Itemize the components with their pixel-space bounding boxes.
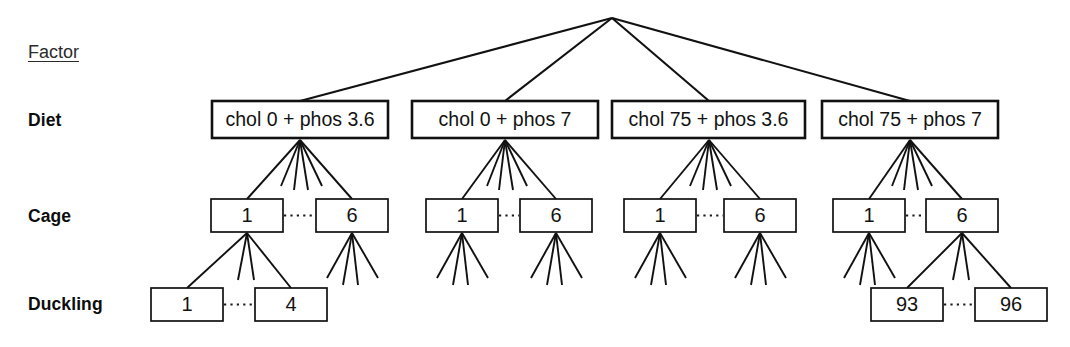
edge-root-diet-4 [612, 18, 910, 101]
edge-root-diet-1 [300, 18, 612, 101]
diet-4-to-cage-edges [869, 140, 962, 199]
cage-1-1-to-duckling-edges [187, 233, 291, 288]
duckling-box-2-last-label: 96 [1000, 293, 1022, 315]
cage-box-3-first-label: 1 [654, 204, 665, 226]
tree-edges-and-nodes: chol 0 + phos 3.6 chol 0 + phos 7 chol 7… [0, 0, 1070, 347]
cage-4-1-to-duckling-stubs [844, 233, 895, 285]
duckling-group-2: 93 96 [871, 288, 1047, 321]
edge-root-diet-2 [505, 18, 612, 101]
edge-diet3-cage6 [709, 140, 760, 199]
cage-group-2: 1 6 [426, 199, 592, 232]
cage-group-3: 1 6 [624, 199, 796, 232]
edge-diet1-cage1 [247, 140, 300, 199]
cage-4-6-to-duckling-edges [907, 233, 1011, 288]
cage-3-1-to-duckling-stubs [635, 233, 686, 285]
cage-box-4-first-label: 1 [863, 204, 874, 226]
diet-node-2[interactable]: chol 0 + phos 7 [412, 101, 598, 138]
cage-group-4: 1 6 [833, 199, 998, 232]
cage-box-3-last-label: 6 [754, 204, 765, 226]
cage-1-6-to-duckling-stubs [327, 233, 378, 285]
cage-group-1: 1 6 [211, 199, 388, 232]
duckling-box-1-first-label: 1 [181, 293, 192, 315]
diet-box-1-label: chol 0 + phos 3.6 [225, 108, 374, 130]
cage-2-1-to-duckling-stubs [437, 233, 488, 285]
root-to-diet-edges [300, 18, 910, 101]
edge-diet2-cage6 [505, 140, 556, 199]
nested-design-tree-diagram: Factor Diet Cage Duckling chol 0 + phos … [0, 0, 1070, 347]
duckling-box-2-first-label: 93 [896, 293, 918, 315]
cage-box-1-last-label: 6 [346, 204, 357, 226]
cage-box-2-last-label: 6 [550, 204, 561, 226]
cage-box-2-first-label: 1 [456, 204, 467, 226]
diet-2-to-cage-edges [462, 140, 556, 199]
diet-node-1[interactable]: chol 0 + phos 3.6 [212, 101, 388, 138]
diet-box-4-label: chol 75 + phos 7 [838, 108, 982, 130]
duckling-box-1-last-label: 4 [285, 293, 296, 315]
duckling-group-1: 1 4 [151, 288, 327, 321]
edge-diet4-cage1 [869, 140, 910, 199]
edge-diet2-cage1 [462, 140, 505, 199]
cage-box-4-last-label: 6 [956, 204, 967, 226]
cage-2-6-to-duckling-stubs [531, 233, 582, 285]
diet-node-3[interactable]: chol 75 + phos 3.6 [612, 101, 805, 138]
diet-1-to-cage-edges [247, 140, 352, 199]
edge-diet4-cage6 [910, 140, 962, 199]
diet-box-3-label: chol 75 + phos 3.6 [629, 108, 789, 130]
edge-diet1-cage6 [300, 140, 352, 199]
cage-3-6-to-duckling-stubs [735, 233, 786, 285]
diet-box-2-label: chol 0 + phos 7 [439, 108, 572, 130]
diet-3-to-cage-edges [660, 140, 760, 199]
diet-node-4[interactable]: chol 75 + phos 7 [822, 101, 998, 138]
cage-box-1-first-label: 1 [241, 204, 252, 226]
edge-diet3-cage1 [660, 140, 709, 199]
